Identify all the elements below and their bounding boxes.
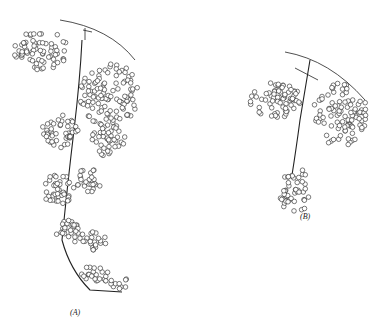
panel-label-b: (B)	[300, 212, 310, 221]
cane-a	[60, 20, 135, 60]
rachis-a	[62, 40, 122, 292]
rachis-b	[292, 60, 310, 175]
panel-label-a: (A)	[70, 308, 80, 317]
inflorescence-illustration	[0, 0, 378, 333]
